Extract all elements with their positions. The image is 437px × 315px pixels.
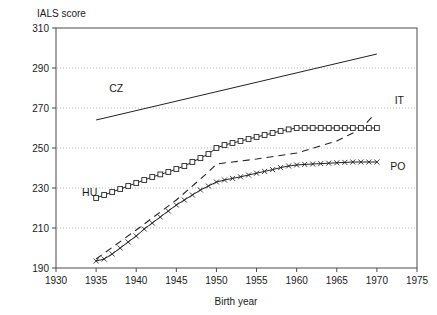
- data-point-marker: [334, 126, 339, 131]
- data-point-marker: [126, 184, 131, 189]
- x-tick-label: 1970: [366, 275, 389, 286]
- data-point-marker: [118, 187, 123, 192]
- x-tick-label: 1940: [125, 275, 148, 286]
- x-axis-ticks: [56, 268, 417, 272]
- x-tick-label: 1965: [326, 275, 349, 286]
- x-tick-label: 1950: [205, 275, 228, 286]
- data-point-marker: [150, 175, 155, 180]
- data-point-marker: [182, 164, 187, 169]
- data-point-marker: [366, 126, 371, 131]
- data-point-marker: [262, 133, 267, 138]
- data-point-marker: [174, 167, 179, 172]
- x-tick-label: 1975: [406, 275, 429, 286]
- data-point-marker: [222, 143, 227, 148]
- data-point-marker: [286, 127, 291, 132]
- y-tick-label: 250: [32, 143, 49, 154]
- series-label-it: IT: [395, 94, 405, 106]
- data-point-marker: [230, 141, 235, 146]
- data-point-marker: [326, 126, 331, 131]
- chart-container: 190210230250270290310 193019351940194519…: [0, 0, 437, 315]
- series-label-po: PO: [390, 160, 405, 172]
- y-axis-ticks: [52, 28, 56, 268]
- y-tick-label: 210: [32, 223, 49, 234]
- data-point-marker: [198, 156, 203, 161]
- y-tick-label: 230: [32, 183, 49, 194]
- x-tick-label: 1930: [45, 275, 68, 286]
- data-point-marker: [214, 146, 219, 151]
- x-tick-label: 1955: [245, 275, 268, 286]
- y-tick-label: 270: [32, 103, 49, 114]
- data-point-marker: [166, 170, 171, 175]
- series-po: [94, 160, 380, 264]
- y-axis-title: IALS score: [37, 8, 86, 19]
- data-point-marker: [302, 126, 307, 131]
- data-point-marker: [318, 126, 323, 131]
- data-point-marker: [270, 131, 275, 136]
- data-point-marker: [374, 126, 379, 131]
- data-point-marker: [246, 137, 251, 142]
- ials-score-line-chart: 190210230250270290310 193019351940194519…: [0, 0, 437, 315]
- series-line-cz: [96, 54, 377, 120]
- data-point-marker: [350, 126, 355, 131]
- data-point-marker: [110, 190, 115, 195]
- data-point-marker: [278, 129, 283, 134]
- data-point-marker: [294, 126, 299, 131]
- data-point-marker: [134, 181, 139, 186]
- data-point-marker: [206, 152, 211, 157]
- series-line-po: [96, 162, 377, 261]
- data-point-marker: [142, 178, 147, 183]
- x-axis-title: Birth year: [215, 296, 258, 307]
- y-tick-label: 310: [32, 23, 49, 34]
- data-point-marker: [190, 160, 195, 165]
- series-label-hu: HU: [82, 186, 97, 198]
- x-tick-label: 1945: [165, 275, 188, 286]
- x-tick-label: 1960: [286, 275, 309, 286]
- x-tick-label: 1935: [85, 275, 108, 286]
- data-point-marker: [158, 172, 163, 177]
- y-tick-label: 190: [32, 263, 49, 274]
- data-point-marker: [342, 126, 347, 131]
- data-point-marker: [254, 135, 259, 140]
- series-cz: [96, 54, 377, 120]
- data-point-marker: [358, 126, 363, 131]
- series-label-cz: CZ: [109, 82, 124, 94]
- y-axis-tick-labels: 190210230250270290310: [32, 23, 49, 274]
- data-point-marker: [310, 126, 315, 131]
- plot-frame: [56, 28, 417, 268]
- data-point-marker: [238, 139, 243, 144]
- x-axis-tick-labels: 1930193519401945195019551960196519701975: [45, 275, 429, 286]
- data-point-marker: [102, 193, 107, 198]
- y-tick-label: 290: [32, 63, 49, 74]
